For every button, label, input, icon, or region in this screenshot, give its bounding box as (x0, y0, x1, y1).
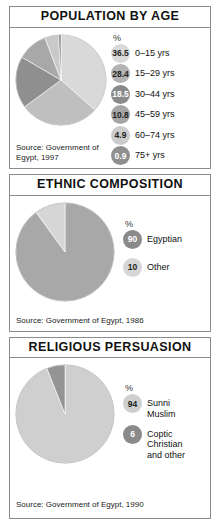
legend-item: 6Coptic Christian and other (123, 425, 205, 460)
panel-body: % 36.50–15 yrs28.415–29 yrs18.530–44 yrs… (9, 28, 211, 169)
panel-religious-persuasion: RELIGIOUS PERSUASION % 94Sunni Muslim6Co… (9, 337, 211, 520)
pie-svg (15, 34, 107, 126)
legend-item: 10.845–59 yrs (111, 105, 205, 124)
pie-chart-population (15, 34, 107, 126)
legend-value-badge: 90 (123, 230, 142, 249)
legend-rows: 36.50–15 yrs28.415–29 yrs18.530–44 yrs10… (111, 44, 205, 167)
legend-percent-header: % (125, 384, 205, 393)
page-title: RELIGIOUS PERSUASION (12, 341, 208, 355)
legend-item: 90Egyptian (123, 230, 205, 249)
legend-population: % 36.50–15 yrs28.415–29 yrs18.530–44 yrs… (107, 34, 205, 167)
legend-category-label: Other (142, 258, 170, 272)
panel-body: % 90Egyptian10Other Source: Government o… (9, 196, 211, 332)
pie-svg (15, 364, 115, 464)
chart-row: % 94Sunni Muslim6Coptic Christian and ot… (15, 364, 205, 466)
infographic-root: POPULATION BY AGE % 36.50–15 yrs28.415–2… (0, 0, 220, 527)
legend-category-label: 60–74 yrs (130, 126, 175, 140)
legend-value-badge: 36.5 (111, 44, 130, 63)
source-note: Source: Government of Egypt, 1986 (16, 312, 144, 326)
legend-category-label: 30–44 yrs (130, 85, 175, 99)
panel-population-by-age: POPULATION BY AGE % 36.50–15 yrs28.415–2… (9, 6, 211, 169)
legend-category-label: 45–59 yrs (130, 105, 175, 119)
legend-value-badge: 0.9 (111, 146, 130, 165)
legend-value-badge: 10 (123, 258, 142, 277)
legend-category-label: Sunni Muslim (142, 394, 176, 419)
legend-rows: 94Sunni Muslim6Coptic Christian and othe… (123, 394, 205, 466)
legend-religious: % 94Sunni Muslim6Coptic Christian and ot… (115, 364, 205, 466)
page-title: POPULATION BY AGE (12, 10, 208, 24)
source-note: Source: Government of Egypt, 1997 (16, 139, 99, 163)
pie-chart-ethnic (15, 202, 115, 302)
legend-value-badge: 6 (123, 425, 142, 444)
pie-chart-religious (15, 364, 115, 464)
legend-category-label: 75+ yrs (130, 146, 165, 160)
legend-percent-header: % (113, 34, 205, 43)
panel-body: % 94Sunni Muslim6Coptic Christian and ot… (9, 358, 211, 519)
legend-item: 18.530–44 yrs (111, 85, 205, 104)
panel-title-box: ETHNIC COMPOSITION (9, 174, 211, 196)
legend-item: 10Other (123, 258, 205, 277)
chart-row: % 90Egyptian10Other (15, 202, 205, 302)
legend-item: 94Sunni Muslim (123, 394, 205, 419)
panel-title-box: RELIGIOUS PERSUASION (9, 337, 211, 359)
legend-category-label: 15–29 yrs (130, 64, 175, 78)
legend-category-label: Coptic Christian and other (142, 425, 185, 460)
legend-item: 36.50–15 yrs (111, 44, 205, 63)
pie-svg (15, 202, 115, 302)
legend-value-badge: 18.5 (111, 85, 130, 104)
legend-category-label: 0–15 yrs (130, 44, 170, 58)
legend-value-badge: 10.8 (111, 105, 130, 124)
legend-item: 4.960–74 yrs (111, 126, 205, 145)
legend-value-badge: 28.4 (111, 64, 130, 83)
panel-title-box: POPULATION BY AGE (9, 6, 211, 28)
legend-item: 28.415–29 yrs (111, 64, 205, 83)
legend-category-label: Egyptian (142, 230, 182, 244)
legend-percent-header: % (125, 220, 205, 229)
page-title: ETHNIC COMPOSITION (12, 178, 208, 192)
legend-item: 0.975+ yrs (111, 146, 205, 165)
legend-rows: 90Egyptian10Other (123, 230, 205, 286)
legend-value-badge: 4.9 (111, 126, 130, 145)
legend-ethnic: % 90Egyptian10Other (115, 202, 205, 286)
source-note: Source: Government of Egypt, 1990 (16, 496, 144, 510)
legend-value-badge: 94 (123, 394, 142, 413)
panel-ethnic-composition: ETHNIC COMPOSITION % 90Egyptian10Other S… (9, 174, 211, 332)
